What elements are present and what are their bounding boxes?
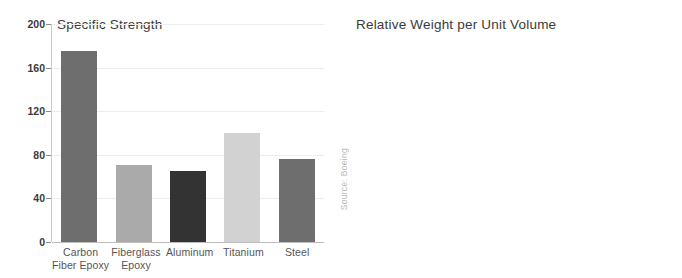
bar[interactable] xyxy=(61,51,97,242)
y-tick-label: 0 xyxy=(39,237,45,248)
x-axis-label-line: Carbon xyxy=(52,246,109,259)
chart-panel-specific-strength: Specific Strength 04080120160200 CarbonF… xyxy=(0,0,341,278)
bar-slot xyxy=(161,24,215,242)
bar-slot xyxy=(106,24,160,242)
y-tick-label: 200 xyxy=(27,19,45,30)
y-tick-mark xyxy=(46,111,51,112)
bar[interactable] xyxy=(116,165,152,242)
plot-area-left: 04080120160200 xyxy=(52,24,324,242)
y-tick-mark xyxy=(46,198,51,199)
y-tick-label: 80 xyxy=(33,150,45,161)
x-axis-line-left xyxy=(52,242,324,243)
x-axis-label-line: Fiber Epoxy xyxy=(52,259,109,272)
y-tick-label: 120 xyxy=(27,106,45,117)
y-tick-label: 160 xyxy=(27,63,45,74)
x-axis-label-line: Titanium xyxy=(217,246,271,259)
bar[interactable] xyxy=(224,133,260,242)
source-note: Source: Boeing xyxy=(339,148,349,210)
bar-slot xyxy=(215,24,269,242)
x-axis-label-line: Aluminum xyxy=(163,246,217,259)
chart-figure: Specific Strength 04080120160200 CarbonF… xyxy=(0,0,682,278)
x-axis-label: Steel xyxy=(270,246,324,271)
chart-title-right: Relative Weight per Unit Volume xyxy=(356,17,556,32)
y-tick-label: 40 xyxy=(33,193,45,204)
bar-slot xyxy=(270,24,324,242)
y-tick-mark xyxy=(46,242,51,243)
x-axis-label: Aluminum xyxy=(163,246,217,271)
x-axis-labels-left: CarbonFiber EpoxyFiberglassEpoxyAluminum… xyxy=(52,246,324,271)
chart-panel-relative-weight: Relative Weight per Unit Volume 0123456 … xyxy=(341,0,682,278)
bar-group-left xyxy=(52,24,324,242)
bar-slot xyxy=(52,24,106,242)
y-tick-mark xyxy=(46,155,51,156)
x-axis-label-line: Fiberglass xyxy=(109,246,163,259)
y-tick-mark xyxy=(46,24,51,25)
x-axis-label-line: Epoxy xyxy=(109,259,163,272)
x-axis-label: CarbonFiber Epoxy xyxy=(52,246,109,271)
x-axis-label: FiberglassEpoxy xyxy=(109,246,163,271)
y-tick-mark xyxy=(46,68,51,69)
bar[interactable] xyxy=(279,159,315,242)
bar[interactable] xyxy=(170,171,206,242)
x-axis-label-line: Steel xyxy=(270,246,324,259)
x-axis-label: Titanium xyxy=(217,246,271,271)
